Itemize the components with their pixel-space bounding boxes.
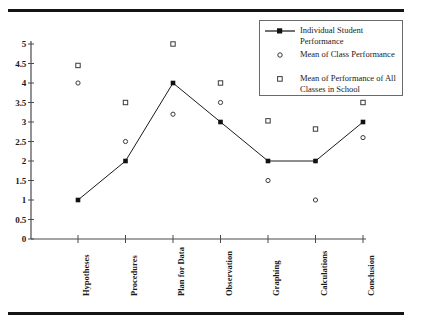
data-point	[76, 63, 80, 67]
x-category-label: Hypotheses	[82, 254, 91, 296]
data-point	[266, 159, 271, 164]
x-category-label: Plan for Data	[177, 247, 186, 296]
data-point	[218, 81, 222, 85]
x-category-label: Observation	[225, 251, 234, 296]
data-point	[218, 120, 223, 125]
y-tick-label: 4	[4, 78, 26, 88]
figure-page: 54.543.532.521.510.50 HypothesesProcedur…	[0, 0, 421, 331]
data-point	[266, 178, 270, 182]
data-point	[171, 81, 176, 86]
data-point	[361, 100, 365, 104]
chart-legend: Individual Student PerformanceMean of Cl…	[259, 20, 403, 96]
legend-item: Mean of Performance of All Classes in Sc…	[260, 72, 404, 92]
data-point	[218, 100, 222, 104]
data-point	[123, 100, 127, 104]
x-category-label: Graphing	[272, 261, 281, 296]
legend-marker-open-square-icon	[264, 72, 298, 88]
data-point	[76, 198, 81, 203]
data-point	[123, 159, 128, 164]
data-point	[76, 81, 80, 85]
data-point	[361, 120, 366, 125]
data-point	[313, 159, 318, 164]
data-point	[361, 136, 365, 140]
data-point	[171, 112, 175, 116]
data-point	[266, 119, 270, 123]
legend-item: Mean of Class Performance	[260, 48, 404, 68]
y-tick-label: 0.5	[4, 215, 26, 225]
y-tick-label: 1.5	[4, 176, 26, 186]
x-category-label: Procedures	[130, 255, 139, 296]
legend-label: Mean of Performance of All Classes in Sc…	[300, 73, 402, 94]
legend-marker-line-filled-square-icon	[264, 24, 298, 40]
y-tick-label: 3.5	[4, 98, 26, 108]
data-point	[171, 42, 175, 46]
legend-marker-svg	[264, 24, 298, 40]
x-category-label: Conclusion	[367, 255, 376, 296]
data-point	[313, 127, 317, 131]
x-category-label: Calculations	[320, 251, 329, 296]
y-tick-label: 2	[4, 156, 26, 166]
y-tick-label: 3	[4, 117, 26, 127]
legend-marker-svg	[264, 48, 298, 64]
legend-label: Individual Student Performance	[300, 25, 402, 46]
legend-marker-open-circle-icon	[264, 48, 298, 64]
data-point	[123, 139, 127, 143]
legend-marker-svg	[264, 72, 298, 88]
y-tick-label: 5	[4, 39, 26, 49]
legend-label: Mean of Class Performance	[300, 49, 402, 60]
y-tick-label: 4.5	[4, 59, 26, 69]
legend-item: Individual Student Performance	[260, 24, 404, 44]
y-tick-label: 1	[4, 195, 26, 205]
data-point	[313, 198, 317, 202]
y-tick-label: 2.5	[4, 137, 26, 147]
y-tick-label: 0	[4, 234, 26, 244]
